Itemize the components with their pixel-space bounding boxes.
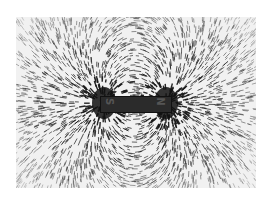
- iron-filing: [219, 142, 221, 144]
- iron-filing: [119, 153, 125, 157]
- iron-filing: [252, 184, 255, 188]
- iron-filing: [69, 116, 74, 118]
- iron-filing: [68, 151, 70, 156]
- iron-filing: [179, 168, 180, 173]
- iron-filing: [139, 114, 145, 115]
- iron-filing: [184, 63, 185, 68]
- iron-filing: [69, 160, 71, 166]
- iron-filing: [21, 56, 24, 58]
- iron-filing: [183, 137, 184, 140]
- iron-filing: [48, 145, 51, 148]
- iron-filing: [202, 124, 205, 126]
- iron-filing: [24, 124, 27, 125]
- iron-filing: [194, 182, 195, 188]
- iron-filing: [251, 76, 254, 77]
- iron-filing: [79, 185, 80, 188]
- iron-filing: [68, 170, 69, 174]
- iron-filing: [178, 67, 179, 73]
- iron-filing: [214, 30, 216, 36]
- iron-filing: [185, 147, 186, 151]
- iron-filing: [170, 182, 172, 186]
- iron-filing: [227, 26, 230, 32]
- iron-filing: [16, 86, 19, 87]
- iron-filing: [245, 32, 249, 37]
- iron-filing: [44, 85, 49, 87]
- iron-filing: [112, 126, 116, 132]
- iron-filing: [246, 71, 251, 73]
- iron-filing: [252, 83, 256, 85]
- iron-filing: [174, 33, 175, 37]
- iron-filing: [22, 85, 28, 87]
- iron-filing: [50, 185, 51, 188]
- iron-filing: [208, 178, 209, 182]
- iron-filing: [142, 116, 147, 118]
- iron-filing: [254, 148, 256, 151]
- iron-filing: [48, 23, 49, 27]
- iron-filing: [244, 45, 247, 48]
- iron-filing: [22, 138, 26, 141]
- iron-filing: [50, 75, 54, 77]
- iron-filing: [130, 76, 136, 77]
- iron-filing: [141, 175, 147, 177]
- iron-filing: [117, 49, 120, 51]
- iron-filing: [59, 184, 60, 188]
- iron-filing: [37, 96, 43, 97]
- iron-filing: [114, 86, 118, 90]
- iron-filing: [250, 118, 255, 119]
- iron-filing: [196, 149, 198, 154]
- iron-filing: [111, 63, 113, 66]
- iron-filing: [69, 106, 75, 107]
- iron-filing: [240, 59, 245, 62]
- iron-filing: [143, 92, 147, 93]
- iron-filing: [178, 183, 180, 189]
- iron-filing: [94, 156, 95, 160]
- iron-filing: [204, 42, 206, 46]
- south-pole-label: S: [104, 98, 115, 105]
- iron-filing: [127, 43, 132, 44]
- iron-filing: [152, 143, 154, 145]
- iron-filing: [218, 71, 224, 75]
- iron-filing: [21, 94, 28, 95]
- iron-filing: [129, 70, 135, 71]
- iron-filing: [116, 42, 121, 46]
- iron-filing: [100, 122, 101, 129]
- iron-filing: [20, 19, 23, 24]
- iron-filing: [227, 112, 233, 113]
- iron-filing: [84, 17, 85, 21]
- iron-filing: [196, 41, 197, 46]
- iron-filing: [174, 127, 175, 132]
- iron-filing: [103, 67, 104, 71]
- iron-filing: [250, 121, 253, 122]
- iron-filing: [48, 39, 51, 44]
- iron-filing: [53, 17, 54, 21]
- iron-filing: [106, 141, 107, 144]
- iron-filing: [17, 59, 20, 61]
- iron-filing: [33, 86, 37, 87]
- iron-filing: [143, 187, 149, 188]
- iron-filing: [37, 59, 41, 62]
- iron-filing: [80, 64, 82, 68]
- iron-filing: [31, 31, 33, 34]
- iron-filing: [145, 32, 149, 34]
- iron-filing: [216, 62, 220, 66]
- iron-filing: [143, 149, 146, 151]
- iron-filing: [244, 164, 248, 169]
- iron-filing: [207, 111, 210, 112]
- iron-filing: [221, 80, 226, 82]
- iron-filing: [123, 180, 130, 182]
- iron-filing: [46, 57, 50, 61]
- iron-filing: [230, 117, 234, 118]
- iron-filing: [208, 132, 211, 135]
- iron-filing: [189, 147, 190, 153]
- iron-filing: [43, 33, 45, 37]
- iron-filing: [230, 91, 235, 92]
- iron-filing: [26, 72, 30, 74]
- iron-filing: [213, 44, 215, 47]
- iron-filing: [19, 127, 24, 129]
- iron-filing: [210, 93, 214, 94]
- iron-filing: [60, 114, 63, 115]
- iron-filing: [97, 121, 98, 125]
- iron-filing: [139, 171, 142, 172]
- iron-filing: [244, 28, 246, 31]
- iron-filing: [89, 90, 91, 92]
